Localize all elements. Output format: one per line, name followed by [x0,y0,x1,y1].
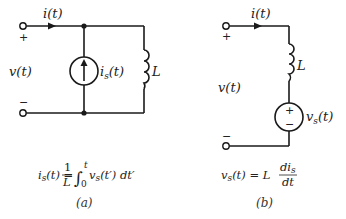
current-arrow-icon [254,23,262,30]
source-plus-sign: + [285,104,294,117]
voltage-label: v(t) [218,80,241,95]
source-minus-sign: − [285,118,294,131]
terminal-bottom [223,143,229,149]
inductor-icon [289,44,294,81]
voltage-label: v(t) [9,64,32,79]
caption-b: (b) [256,196,273,210]
node-dot [81,110,86,115]
source-arrow-up-icon [81,59,88,66]
terminal-top [20,23,26,29]
fraction-denominator: L [62,175,71,189]
circuit-figure: i(t) + v(t) − is(t) L is(t) = 1 L ∫ t 0 … [0,0,346,219]
caption-a: (a) [76,196,93,210]
source-label: vs(t) [306,109,333,126]
terminal-top [223,23,229,29]
node-dot [81,23,86,28]
fraction-numerator: dis [280,160,296,175]
panel-b-voltage-source-equivalent: + − i(t) + L v(t) vs(t) − vs(t) = L dis … [218,6,333,210]
plus-sign: + [222,30,231,43]
upper-limit: t [84,160,88,170]
minus-sign: − [19,96,28,109]
source-label: is(t) [100,64,124,81]
current-arrow-icon [48,23,56,30]
inductor-label: L [296,58,306,73]
svg-text:vs(t) = L: vs(t) = L [221,168,270,183]
inductor-label: L [151,64,161,79]
current-label: i(t) [251,6,271,21]
lower-limit: 0 [81,179,87,189]
terminal-bottom [20,110,26,116]
equation-a: is(t) = 1 L ∫ t 0 vs(t′) dt′ [38,160,135,189]
svg-text:vs(t′) dt′: vs(t′) dt′ [89,168,135,183]
minus-sign: − [222,130,231,143]
panel-a-current-source-equivalent: i(t) + v(t) − is(t) L is(t) = 1 L ∫ t 0 … [9,6,161,210]
plus-sign: + [19,31,28,44]
fraction-numerator: 1 [64,160,71,174]
current-label: i(t) [43,6,63,21]
equation-b: vs(t) = L dis dt [221,160,297,189]
fraction-denominator: dt [282,175,294,189]
inductor-icon [144,50,149,89]
